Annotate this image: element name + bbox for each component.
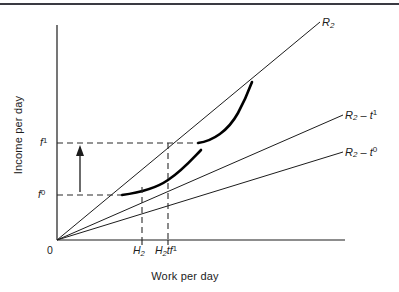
curve-label-r2t0-tail: – t: [357, 146, 372, 158]
origin-label: 0: [47, 244, 53, 256]
y-tick-label-f0: f0: [38, 188, 45, 200]
curve-label-r2: R2: [322, 16, 334, 30]
curve-label-r2t1-tail: – t: [357, 109, 372, 121]
x-tick-h2-sub: 2: [141, 249, 145, 258]
curve-label-r2t0-main: R: [345, 146, 353, 158]
y-axis-title: Income per day: [12, 65, 24, 205]
y-tick-f0-sup: 0: [41, 188, 45, 197]
curve-label-r2t1-sup: 1: [373, 108, 377, 117]
indifference-curve-high: [198, 82, 252, 143]
plot-canvas: [0, 0, 399, 292]
y-tick-f1-sup: 1: [43, 136, 47, 145]
income-increase-arrow-head: [76, 145, 84, 156]
line-r2-minus-t1: [57, 115, 343, 240]
figure-container: Income per day Work per day 0 f1 f0 H2 H…: [0, 0, 399, 292]
line-r2: [57, 22, 320, 240]
curve-label-r2-minus-t1: R2 – t1: [345, 108, 377, 122]
curve-label-r2-sub: 2: [330, 21, 334, 30]
curve-label-r2t1-main: R: [345, 109, 353, 121]
curve-label-r2-main: R: [322, 16, 330, 28]
x-tick-h2-main: H: [133, 244, 141, 256]
x-tick-h2tf1-main: H: [155, 244, 163, 256]
x-tick-h2tf1-sup: 1: [173, 244, 177, 253]
curve-label-r2-minus-t0: R2 – t0: [345, 145, 377, 159]
indifference-curve-low: [122, 150, 201, 195]
curve-label-r2t0-sup: 0: [373, 145, 377, 154]
line-r2-minus-t0: [57, 152, 343, 240]
x-tick-label-h2tf1: H2tf1: [155, 244, 177, 258]
x-axis-title: Work per day: [105, 270, 265, 282]
y-tick-label-f1: f1: [40, 136, 47, 148]
x-tick-label-h2: H2: [133, 244, 145, 258]
